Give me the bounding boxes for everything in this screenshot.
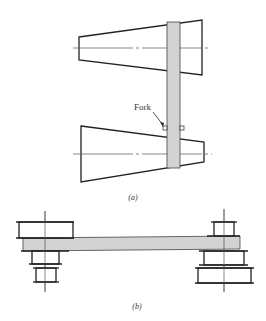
fork-left-guide: [163, 126, 167, 130]
part-a: Fork (a): [73, 20, 212, 202]
cone-pulley-diagram: Fork (a): [0, 0, 266, 321]
left-stepped-pulley: [16, 211, 74, 292]
part-b: (b): [16, 209, 254, 311]
fork-right-guide: [180, 126, 184, 130]
caption-a: (a): [128, 193, 138, 202]
caption-b: (b): [132, 302, 142, 311]
upper-cone-pulley: [79, 20, 202, 75]
fork-label: Fork: [134, 102, 152, 112]
right-stepped-pulley: [195, 209, 254, 292]
belt: [167, 22, 180, 168]
